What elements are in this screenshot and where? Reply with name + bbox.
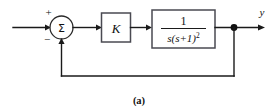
denominator-exponent: 2 [196,31,200,40]
gain-to-plant-wire [131,24,153,30]
summing-junction: Σ + − [44,6,73,45]
plus-sign-label: + [45,6,51,18]
sigma-icon: Σ [58,22,65,35]
error-signal-wire [73,24,102,30]
minus-sign-label: − [44,33,50,45]
output-arrowhead [258,24,265,30]
control-system-diagram: Σ + − K 1 s(s+1)2 [0,0,278,111]
transfer-function-denominator: s(s+1)2 [167,31,200,45]
transfer-function-numerator: 1 [181,14,187,28]
block-diagram-figure: Σ + − K 1 s(s+1)2 [0,0,278,111]
gain-block: K [102,13,131,42]
denominator-base: s(s+1) [167,32,196,45]
plant-input-arrowhead [146,24,152,30]
plant-block: 1 s(s+1)2 [152,10,215,48]
output-signal-label: y [259,6,265,18]
input-signal-wire [13,24,51,30]
output-signal-wire: y [215,6,265,31]
gain-block-label: K [111,21,122,36]
figure-caption: (a) [133,95,146,107]
